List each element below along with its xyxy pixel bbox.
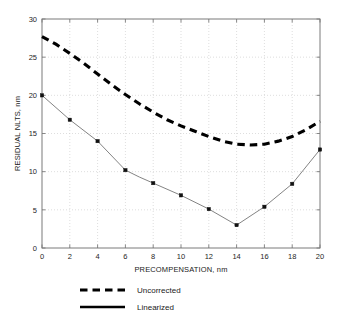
x-tick-label: 10 xyxy=(177,252,185,261)
y-tick-label: 20 xyxy=(29,91,37,100)
chart-canvas: 02468101214161820 051015202530 PRECOMPEN… xyxy=(0,0,344,325)
data-point-marker xyxy=(291,182,294,185)
x-tick-label: 6 xyxy=(123,252,127,261)
data-point-marker xyxy=(263,205,266,208)
y-axis-title: RESIDUAL NLTS, nm xyxy=(13,96,22,171)
data-point-marker xyxy=(152,181,155,184)
x-tick-label: 18 xyxy=(288,252,296,261)
legend-label: Linearized xyxy=(137,303,174,312)
data-point-marker xyxy=(235,223,238,226)
y-tick-label: 25 xyxy=(29,53,37,62)
x-tick-label: 0 xyxy=(40,252,44,261)
y-tick-label: 15 xyxy=(29,129,37,138)
data-point-marker xyxy=(96,139,99,142)
y-tick-label: 30 xyxy=(29,15,37,24)
x-tick-labels: 02468101214161820 xyxy=(40,252,324,261)
x-tick-label: 20 xyxy=(316,252,324,261)
figure-container: 02468101214161820 051015202530 PRECOMPEN… xyxy=(0,0,344,325)
data-point-marker xyxy=(40,94,43,97)
x-tick-label: 2 xyxy=(68,252,72,261)
y-tick-labels: 051015202530 xyxy=(29,15,37,253)
x-axis-title: PRECOMPENSATION, nm xyxy=(134,265,227,274)
data-series xyxy=(40,37,321,227)
x-tick-label: 16 xyxy=(260,252,268,261)
x-tick-label: 4 xyxy=(96,252,100,261)
data-point-marker xyxy=(68,118,71,121)
x-tick-label: 14 xyxy=(232,252,240,261)
y-tick-label: 10 xyxy=(29,167,37,176)
data-point-marker xyxy=(179,194,182,197)
y-tick-label: 5 xyxy=(33,206,37,215)
chart-legend: UncorrectedLinearized xyxy=(80,286,181,312)
x-tick-label: 12 xyxy=(205,252,213,261)
data-point-marker xyxy=(124,168,127,171)
y-tick-label: 0 xyxy=(33,244,37,253)
legend-label: Uncorrected xyxy=(137,286,181,295)
data-point-marker xyxy=(318,148,321,151)
x-tick-label: 8 xyxy=(151,252,155,261)
gridlines xyxy=(42,19,320,248)
data-point-marker xyxy=(207,207,210,210)
